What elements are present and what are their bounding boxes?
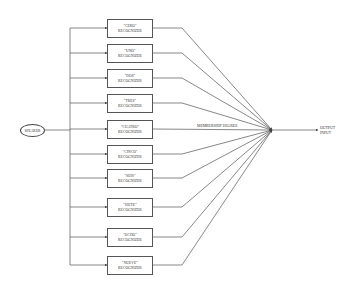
recognizer-box: "SEIS"RECOGNIZER <box>107 169 153 188</box>
recognizer-box: "CUATRO"RECOGNIZER <box>107 120 153 139</box>
diagram-connectors <box>0 0 354 289</box>
recognizer-suffix: RECOGNIZER <box>118 238 142 243</box>
recognizer-suffix: RECOGNIZER <box>118 104 142 109</box>
recognizer-box: "DOS"RECOGNIZER <box>107 69 153 88</box>
speaker-node: SPEAKER <box>20 124 45 137</box>
recognizer-box: "TRES"RECOGNIZER <box>107 94 153 113</box>
recognizer-suffix: RECOGNIZER <box>118 266 142 271</box>
recognizer-suffix: RECOGNIZER <box>118 130 142 135</box>
output-label-line2: INPUT <box>320 131 335 136</box>
recognizer-box: "SIETE"RECOGNIZER <box>107 198 153 217</box>
recognizer-box: "CINCO"RECOGNIZER <box>107 145 153 164</box>
recognizer-suffix: RECOGNIZER <box>118 179 142 184</box>
recognizer-suffix: RECOGNIZER <box>118 79 142 84</box>
recognizer-box: "CERO"RECOGNIZER <box>107 19 153 38</box>
output-label: OUTPUT INPUT <box>320 126 335 136</box>
recognizer-suffix: RECOGNIZER <box>118 208 142 213</box>
speaker-label: SPEAKER <box>25 129 41 133</box>
membership-degree-label: MEMBERSHIP DEGREE <box>197 124 237 128</box>
recognizer-box: "NUEVE"RECOGNIZER <box>107 256 153 275</box>
recognizer-suffix: RECOGNIZER <box>118 29 142 34</box>
recognizer-suffix: RECOGNIZER <box>118 54 142 59</box>
recognizer-suffix: RECOGNIZER <box>118 155 142 160</box>
recognizer-box: "OCHO"RECOGNIZER <box>107 228 153 247</box>
recognizer-box: "UNO"RECOGNIZER <box>107 44 153 63</box>
